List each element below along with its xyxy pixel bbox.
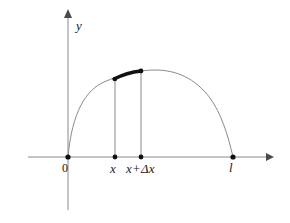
length-l-tick-label: l [229, 161, 233, 174]
y-axis-arrowhead [64, 9, 72, 18]
arc-length-diagram: y 0 x x+Δx l [0, 0, 290, 223]
y-axis-label: y [76, 19, 82, 32]
curve-path [68, 70, 233, 157]
highlighted-arc-segment [114, 71, 141, 79]
x-plus-delta-x-tick-label: x+Δx [126, 162, 155, 175]
diagram-canvas [0, 0, 290, 223]
point-origin [65, 154, 70, 159]
point-x-plus-delta-x-on-curve [139, 69, 144, 74]
x-axis-arrowhead [266, 153, 274, 161]
point-x-on-curve [113, 77, 117, 81]
point-x-plus-delta-x-on-axis [139, 155, 144, 160]
point-l-on-axis [230, 154, 235, 159]
origin-label: 0 [62, 162, 68, 174]
x-tick-label: x [110, 162, 116, 175]
point-x-on-axis [113, 155, 118, 160]
